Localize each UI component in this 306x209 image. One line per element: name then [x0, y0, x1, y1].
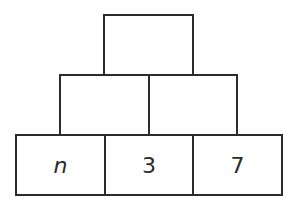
pyramid-cell-top [103, 14, 194, 76]
cell-value-variable: n [54, 153, 68, 178]
pyramid-cell-bottom-middle: 3 [104, 134, 194, 196]
cell-value: 7 [231, 153, 245, 178]
pyramid-cell-middle-right [148, 74, 238, 136]
pyramid-cell-middle-left [59, 74, 150, 136]
cell-value: 3 [142, 153, 156, 178]
pyramid-cell-bottom-right: 7 [192, 134, 283, 196]
pyramid-cell-bottom-left: n [15, 134, 106, 196]
